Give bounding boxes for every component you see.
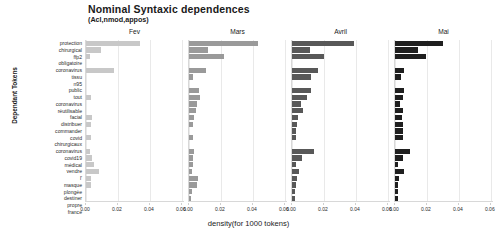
bar-row [292, 114, 390, 121]
bar [395, 54, 426, 59]
bar-row [189, 175, 287, 182]
y-axis-tick-label: covid [18, 135, 84, 142]
bar [86, 41, 140, 46]
bar [189, 101, 197, 106]
bar [189, 169, 192, 174]
x-tick-mark [323, 203, 324, 205]
x-tick-mark [181, 203, 182, 205]
bar-row [395, 74, 493, 81]
bar [86, 115, 92, 120]
bar-row [292, 94, 390, 101]
y-axis-tick-label: destiner [18, 195, 84, 202]
x-axis-ticks: 0.000.020.040.06 [85, 203, 184, 215]
bar-row [189, 54, 287, 61]
y-axis-tick-label: plongée [18, 189, 84, 196]
title-block: Nominal Syntaxic dependences (Acl,nmod,a… [88, 3, 388, 24]
bar [292, 95, 307, 100]
bar [86, 47, 101, 52]
y-axis-tick-label: protection [18, 40, 84, 47]
y-axis-tick-label: covid19 [18, 155, 84, 162]
bar-row [86, 148, 184, 155]
bar-row [292, 195, 390, 202]
chart-subtitle: (Acl,nmod,appos) [88, 15, 388, 24]
x-tick-mark [394, 203, 395, 205]
bar [292, 41, 354, 46]
bar-row [292, 135, 390, 142]
bar-row [395, 195, 493, 202]
x-axis-tick-label: 0.00 [389, 206, 399, 212]
bar-row [86, 175, 184, 182]
plot-area [394, 40, 493, 202]
y-axis-tick-label: public [18, 87, 84, 94]
bar-row [189, 60, 287, 67]
bar [395, 101, 400, 106]
x-axis-tick-label: 0.04 [144, 206, 154, 212]
bar-row [292, 81, 390, 88]
bar-row [292, 67, 390, 74]
bar [395, 74, 401, 79]
plot-area [291, 40, 390, 202]
bar [292, 47, 310, 52]
bar [292, 88, 311, 93]
bar [395, 182, 398, 187]
bar-row [86, 195, 184, 202]
bar-row [86, 54, 184, 61]
bar [395, 122, 403, 127]
bar-row [86, 189, 184, 196]
x-axis-title: density(for 1000 tokens) [0, 219, 497, 228]
y-axis-tick-label: l' [18, 175, 84, 182]
bar [395, 88, 404, 93]
bar [292, 149, 314, 154]
y-axis-tick-label: n95 [18, 81, 84, 88]
bar [189, 135, 193, 140]
bar [395, 135, 403, 140]
x-axis-tick-label: 0.02 [318, 206, 328, 212]
bar-row [395, 128, 493, 135]
bar [395, 108, 403, 113]
y-axis-tick-label: médical [18, 162, 84, 169]
chart-figure: Nominal Syntaxic dependences (Acl,nmod,a… [0, 0, 497, 236]
bar-row [395, 47, 493, 54]
panel-header: Mars [188, 28, 287, 35]
bar [395, 189, 398, 194]
bar [292, 68, 318, 73]
x-axis-ticks: 0.000.020.040.06 [394, 203, 493, 215]
y-axis-title: Dependant Tokens [11, 56, 18, 136]
bar [189, 88, 199, 93]
bar-row [395, 162, 493, 169]
bar-row [395, 168, 493, 175]
bar [292, 54, 324, 59]
y-axis-tick-label: coronavirus [18, 148, 84, 155]
bar-row [86, 101, 184, 108]
bar-row [292, 175, 390, 182]
y-axis-tick-label: masque [18, 182, 84, 189]
y-axis-tick-label: coronavirus [18, 101, 84, 108]
bar-row [395, 60, 493, 67]
bar [86, 149, 90, 154]
bar [86, 135, 91, 140]
bar [189, 108, 196, 113]
bar [292, 135, 296, 140]
panel-header: Avril [291, 28, 390, 35]
bar [395, 68, 404, 73]
bar-row [395, 101, 493, 108]
y-axis-tick-label: tissu [18, 74, 84, 81]
bar-row [292, 87, 390, 94]
bar-row [189, 182, 287, 189]
bar [189, 176, 198, 181]
y-axis-tick-label: ffp2 [18, 54, 84, 61]
bar-row [292, 54, 390, 61]
x-axis-tick-label: 0.04 [350, 206, 360, 212]
bar-row [292, 74, 390, 81]
bar [395, 155, 403, 160]
x-axis-tick-label: 0.06 [485, 206, 495, 212]
bar [395, 41, 443, 46]
bar [86, 122, 91, 127]
x-tick-mark [387, 203, 388, 205]
bar-row [189, 128, 287, 135]
bar-row [292, 162, 390, 169]
bar-row [395, 114, 493, 121]
y-axis-tick-label: vendre [18, 168, 84, 175]
y-axis-tick-label: france [18, 209, 84, 216]
x-axis-tick-label: 0.00 [286, 206, 296, 212]
